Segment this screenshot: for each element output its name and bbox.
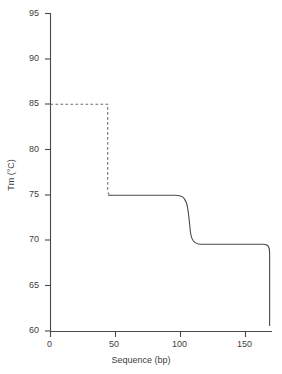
series-solid-segment (108, 195, 270, 326)
chart-figure: Tm (°C) 95 90 85 80 75 70 65 60 0 50 100… (0, 0, 282, 374)
y-tick-label-70: 70 (29, 235, 39, 244)
y-axis-ticks (45, 14, 50, 332)
series-dashed-segment (51, 104, 113, 195)
y-tick-label-95: 95 (29, 9, 39, 18)
y-axis-title: Tm (°C) (6, 159, 16, 191)
x-axis-title: Sequence (bp) (0, 356, 282, 365)
y-tick-label-75: 75 (29, 190, 39, 199)
y-tick-label-90: 90 (29, 54, 39, 63)
x-tick-label-100: 100 (172, 340, 187, 349)
y-tick-label-85: 85 (29, 99, 39, 108)
x-tick-label-0: 0 (47, 340, 52, 349)
y-tick-label-65: 65 (29, 281, 39, 290)
x-tick-label-150: 150 (237, 340, 252, 349)
y-tick-label-60: 60 (29, 326, 39, 335)
x-tick-label-50: 50 (109, 340, 119, 349)
chart-plot-area: Tm (°C) (0, 0, 282, 374)
y-tick-label-80: 80 (29, 145, 39, 154)
